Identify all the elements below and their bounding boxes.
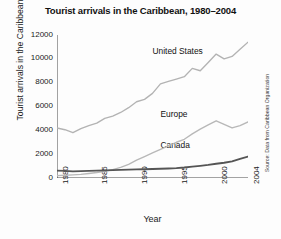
y-tick-label: 10000 — [13, 53, 53, 62]
y-tick-label: 8000 — [13, 77, 53, 86]
series-line-canada — [57, 157, 248, 172]
y-axis-label: Tourist arrivals in the Caribbean — [15, 0, 25, 140]
chart-figure: Tourist arrivals in the Caribbean, 1980–… — [0, 0, 281, 239]
y-tick-label: 6000 — [13, 101, 53, 110]
y-tick-label: 2000 — [13, 149, 53, 158]
series-line-europe — [57, 121, 248, 176]
series-line-united-states — [57, 42, 248, 133]
x-axis-label: Year — [57, 214, 248, 224]
x-tick-label: 2004 — [252, 166, 261, 184]
y-tick-label: 12000 — [13, 30, 53, 39]
source-note: Source: Data from Caribbean Organization — [264, 48, 270, 198]
y-tick-label: 4000 — [13, 125, 53, 134]
plot-svg — [57, 35, 248, 178]
y-tick-label: 0 — [13, 173, 53, 182]
plot-area — [57, 35, 248, 178]
chart-title: Tourist arrivals in the Caribbean, 1980–… — [0, 5, 281, 16]
